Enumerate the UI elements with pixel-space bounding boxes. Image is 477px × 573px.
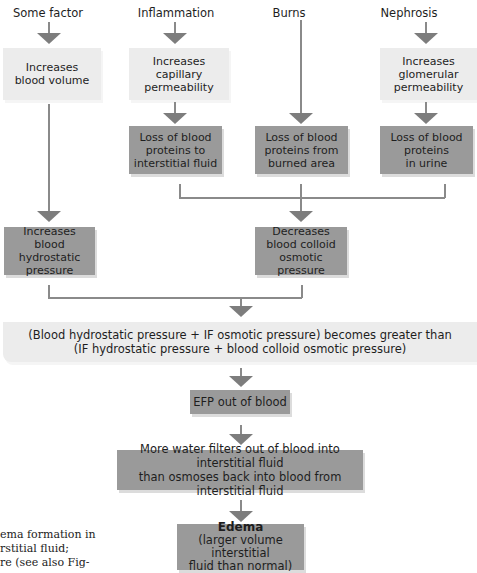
box-efp: EFP out of blood [190, 390, 290, 414]
connector [179, 197, 445, 199]
box-line: permeability [144, 81, 213, 94]
box-line: Loss of blood [139, 131, 211, 144]
box-line: in urine [406, 157, 448, 170]
box-line: burned area [268, 157, 335, 170]
box-line: Loss of blood [265, 131, 337, 144]
box-loss-to-interstitial: Loss of blood proteins to interstitial f… [129, 126, 222, 174]
box-line: (Blood hydrostatic pressure + IF osmotic… [28, 328, 451, 342]
box-increases-blood-volume: Increases blood volume [3, 48, 101, 100]
figure-caption: ema formation in rstitial fluid; re (see… [0, 528, 96, 570]
box-increases-capillary-permeability: Increases capillary permeability [129, 48, 229, 100]
box-line: interstitial fluid [134, 157, 217, 170]
arrow-down-icon [37, 211, 61, 222]
connector [444, 184, 446, 198]
connector [300, 20, 302, 114]
box-line: Increases [26, 61, 78, 74]
arrow-down-icon [163, 33, 187, 44]
box-line: than osmoses back into blood from inters… [117, 470, 363, 498]
box-line: glomerular [398, 68, 458, 81]
caption-line: re (see also Fig- [0, 556, 96, 570]
box-line: More water filters out of blood into int… [117, 442, 363, 470]
box-decreases-colloid: Decreases blood colloid osmotic pressure [255, 227, 347, 275]
box-line: blood colloid [266, 238, 336, 251]
box-increases-glomerular-permeability: Increases glomerular permeability [380, 48, 477, 100]
arrow-down-icon [229, 376, 253, 387]
arrow-down-icon [229, 306, 253, 317]
box-line: Increases [23, 225, 75, 238]
box-line: proteins to [146, 144, 205, 157]
connector [48, 104, 50, 212]
connector [300, 197, 302, 212]
caption-line: ema formation in [0, 528, 96, 542]
box-edema: Edema (larger volume interstitial fluid … [177, 524, 304, 570]
box-line: (larger volume interstitial [177, 534, 304, 560]
connector [48, 297, 302, 299]
arrow-down-icon [37, 33, 61, 44]
connector [179, 184, 181, 198]
box-line: osmotic pressure [255, 251, 347, 277]
connector [300, 184, 302, 198]
box-pressure-comparison: (Blood hydrostatic pressure + IF osmotic… [3, 322, 477, 362]
box-line: Loss of blood [390, 131, 462, 144]
box-loss-from-burned: Loss of blood proteins from burned area [255, 126, 348, 174]
arrow-down-icon [289, 113, 313, 124]
box-line: pressure [26, 264, 74, 277]
caption-line: rstitial fluid; [0, 542, 96, 556]
box-line: blood hydrostatic [4, 238, 95, 264]
box-line: proteins [404, 144, 449, 157]
box-line: (IF hydrostatic pressure + blood colloid… [74, 342, 406, 356]
box-line: EFP out of blood [193, 396, 287, 409]
box-loss-in-urine: Loss of blood proteins in urine [380, 126, 473, 174]
cause-nephrosis: Nephrosis [364, 6, 454, 20]
cause-inflammation: Inflammation [130, 6, 222, 20]
cause-burns: Burns [254, 6, 324, 20]
box-increases-hydrostatic: Increases blood hydrostatic pressure [4, 227, 95, 275]
box-line: Increases [153, 55, 205, 68]
arrow-down-icon [289, 211, 313, 222]
box-line: blood volume [15, 74, 90, 87]
arrow-down-icon [163, 113, 187, 124]
box-line: permeability [394, 81, 463, 94]
box-line: Decreases [272, 225, 329, 238]
box-more-water: More water filters out of blood into int… [117, 450, 363, 490]
box-line: fluid than normal) [189, 560, 292, 573]
box-line: proteins from [265, 144, 339, 157]
cause-some-factor: Some factor [2, 6, 94, 20]
box-line: Increases [402, 55, 454, 68]
box-line: capillary [156, 68, 203, 81]
arrow-down-icon [414, 33, 438, 44]
arrow-down-icon [414, 113, 438, 124]
